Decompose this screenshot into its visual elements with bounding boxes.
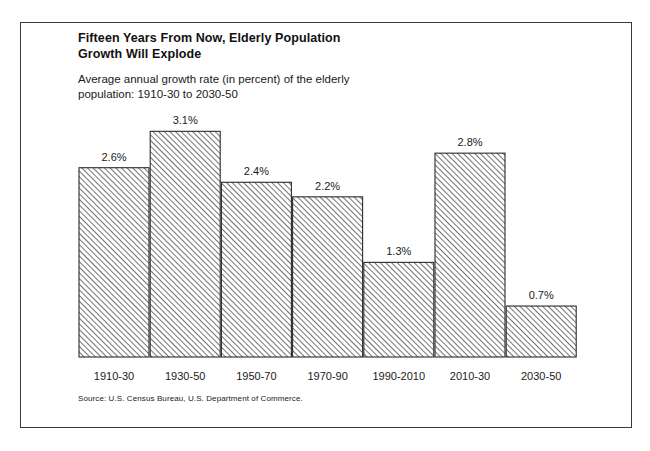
bar-value-label-2010-30: 2.8% [457,136,482,148]
bar-1930-50 [150,131,220,357]
bar-1950-70 [221,182,291,357]
chart-figure-frame: Fifteen Years From Now, Elderly Populati… [20,22,632,428]
bar-value-label-1950-70: 2.4% [244,165,269,177]
category-label-1990-2010: 1990-2010 [372,370,425,382]
bar-1970-90 [293,197,363,357]
bar-1990-2010 [364,262,434,357]
chart-source-note: Source: U.S. Census Bureau, U.S. Departm… [78,394,303,403]
bar-value-label-1970-90: 2.2% [315,180,340,192]
bar-2010-30 [435,153,505,357]
bar-value-label-1910-30: 2.6% [101,151,126,163]
bar-value-label-1990-2010: 1.3% [386,245,411,257]
category-label-2030-50: 2030-50 [521,370,561,382]
bar-1910-30 [79,168,149,357]
category-label-1950-70: 1950-70 [236,370,276,382]
category-label-2010-30: 2010-30 [450,370,490,382]
bar-value-label-2030-50: 0.7% [529,289,554,301]
category-label-1970-90: 1970-90 [307,370,347,382]
category-axis-labels: 1910-301930-501950-701970-901990-2010201… [94,370,562,382]
category-label-1910-30: 1910-30 [94,370,134,382]
bar-series [79,131,576,357]
bar-2030-50 [506,306,576,357]
category-label-1930-50: 1930-50 [165,370,205,382]
bar-value-label-1930-50: 3.1% [173,114,198,126]
bar-chart-plot: 2.6%3.1%2.4%2.2%1.3%2.8%0.7% 1910-301930… [21,23,633,429]
